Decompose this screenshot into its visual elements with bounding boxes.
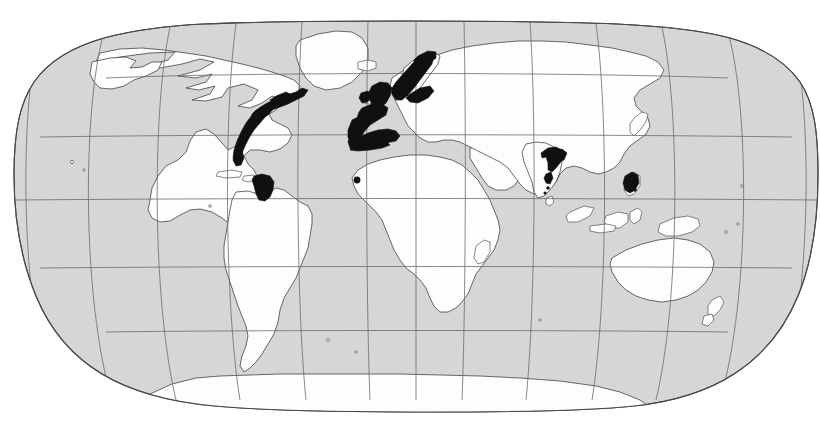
world-map-figure <box>0 0 820 431</box>
range-dot-east-india-1 <box>546 186 550 190</box>
island-south-georgia <box>355 351 357 353</box>
island-kerguelen <box>539 319 541 321</box>
island-falklands <box>327 339 330 342</box>
range-dot-caribbean <box>234 158 238 162</box>
range-dot-east-india-2 <box>544 192 547 195</box>
range-dot-philippines <box>633 188 637 192</box>
island-hawaii <box>70 160 73 163</box>
world-map-canvas <box>0 0 820 431</box>
island-azores <box>741 185 744 188</box>
island-fiji <box>725 231 728 234</box>
range-dot-west-africa <box>354 177 361 184</box>
island-galapagos <box>209 205 212 208</box>
island-marquesas <box>83 169 85 171</box>
island-samoa <box>737 223 739 225</box>
